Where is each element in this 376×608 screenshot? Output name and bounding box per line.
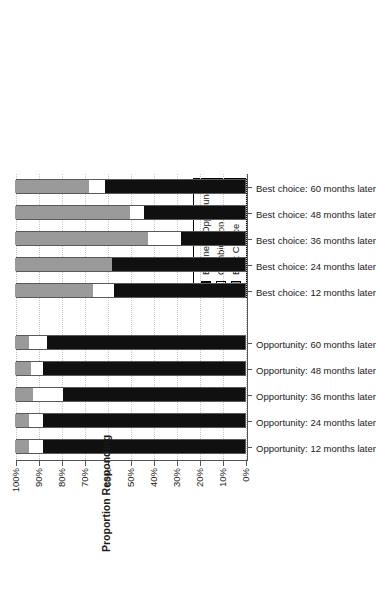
bar-segment <box>15 285 93 298</box>
value-axis-tick <box>39 461 40 466</box>
value-axis-tick <box>177 461 178 466</box>
bar-segment <box>181 233 245 246</box>
plot-area <box>16 174 246 460</box>
bar-segment <box>15 441 29 454</box>
value-axis-label: 30% <box>172 468 182 608</box>
category-label: Opportunity: 60 months later <box>256 340 376 350</box>
bar-segment <box>43 415 245 428</box>
category-label: Opportunity: 24 months later <box>256 418 376 428</box>
bar-segment <box>31 363 43 376</box>
bar-segment <box>130 207 144 220</box>
category-axis-tick <box>247 213 252 214</box>
category-axis-tick <box>247 265 252 266</box>
bar-2[interactable] <box>16 388 246 403</box>
bar-segment <box>63 389 245 402</box>
bar-0[interactable] <box>16 440 246 455</box>
value-axis-label: 20% <box>195 468 205 608</box>
value-axis-tick <box>223 461 224 466</box>
bar-5[interactable] <box>16 284 246 299</box>
category-axis-tick <box>247 291 252 292</box>
bar-segment <box>15 415 29 428</box>
bar-segment <box>15 207 130 220</box>
bar-segment <box>29 337 47 350</box>
category-label: Best choice: 12 months later <box>256 288 376 298</box>
bar-9[interactable] <box>16 180 246 195</box>
value-axis <box>16 460 247 461</box>
category-axis-tick <box>247 187 252 188</box>
bar-8[interactable] <box>16 206 246 221</box>
value-axis-label: 60% <box>103 468 113 608</box>
bar-segment <box>15 363 31 376</box>
category-axis-tick <box>247 239 252 240</box>
value-axis-label: 40% <box>149 468 159 608</box>
category-axis <box>247 174 248 461</box>
value-axis-tick <box>154 461 155 466</box>
bar-segment <box>43 363 245 376</box>
category-label: Best choice: 24 months later <box>256 262 376 272</box>
category-axis-tick <box>247 421 252 422</box>
category-label: Opportunity: 12 months later <box>256 444 376 454</box>
value-axis-label: 0% <box>241 468 251 608</box>
category-axis-tick <box>247 343 252 344</box>
category-label: Opportunity: 36 months later <box>256 392 376 402</box>
value-axis-label: 10% <box>218 468 228 608</box>
bar-segment <box>43 441 245 454</box>
bar-segment <box>144 207 245 220</box>
category-label: Opportunity: 48 months later <box>256 366 376 376</box>
bar-segment <box>112 259 245 272</box>
value-axis-tick <box>131 461 132 466</box>
bar-4[interactable] <box>16 336 246 351</box>
bar-7[interactable] <box>16 232 246 247</box>
value-axis-label: 100% <box>11 468 21 608</box>
bar-segment <box>29 441 43 454</box>
category-label: Best choice: 48 months later <box>256 210 376 220</box>
value-axis-label: 90% <box>34 468 44 608</box>
category-label: Best choice: 60 months later <box>256 184 376 194</box>
bar-segment <box>15 259 112 272</box>
bar-1[interactable] <box>16 414 246 429</box>
bar-segment <box>33 389 63 402</box>
bar-group <box>16 174 246 460</box>
bar-segment <box>29 415 43 428</box>
category-label: Best choice: 36 months later <box>256 236 376 246</box>
value-axis-label: 50% <box>126 468 136 608</box>
bar-segment <box>93 285 114 298</box>
bar-segment <box>114 285 245 298</box>
value-axis-label: 80% <box>57 468 67 608</box>
bar-segment <box>15 389 33 402</box>
bar-segment <box>15 337 29 350</box>
value-axis-tick <box>62 461 63 466</box>
bar-3[interactable] <box>16 362 246 377</box>
category-axis-tick <box>247 395 252 396</box>
value-axis-tick <box>200 461 201 466</box>
category-axis-tick <box>247 369 252 370</box>
bar-segment <box>105 181 245 194</box>
value-axis-tick <box>16 461 17 466</box>
bar-segment <box>89 181 105 194</box>
bar-segment <box>47 337 245 350</box>
value-axis-tick <box>85 461 86 466</box>
bar-segment <box>148 233 180 246</box>
category-axis-tick <box>247 447 252 448</box>
bar-segment <box>15 181 89 194</box>
value-axis-label: 70% <box>80 468 90 608</box>
bar-segment <box>15 233 148 246</box>
value-axis-tick <box>246 461 247 466</box>
bar-6[interactable] <box>16 258 246 273</box>
